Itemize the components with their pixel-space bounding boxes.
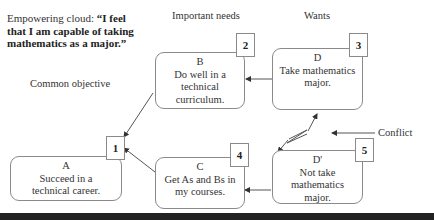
conflict-label: Conflict (378, 127, 412, 138)
arrow-b-to-a (124, 93, 153, 137)
box-c-text: Get As and Bs in my courses. (156, 174, 244, 199)
box-b-number: 2 (236, 33, 255, 57)
box-b-letter: B (156, 56, 244, 69)
box-a-letter: A (11, 160, 121, 173)
box-d-prime-want: D' Not take mathematics major. (272, 150, 363, 204)
box-d-prime-number: 5 (355, 138, 374, 162)
box-b-need: B Do well in a technical curriculum. (155, 52, 245, 109)
box-d-prime-text: Not take mathematics major. (273, 167, 362, 205)
conflict-arrow-up (308, 114, 317, 131)
bottom-border-bar (0, 213, 434, 220)
common-objective-heading: Common objective (30, 78, 110, 89)
box-d-prime-letter: D' (273, 154, 362, 167)
box-c-number: 4 (230, 143, 249, 167)
box-a-common-objective: A Succeed in a technical career. (10, 156, 122, 201)
important-needs-heading: Important needs (172, 10, 240, 21)
box-b-text: Do well in a technical curriculum. (156, 69, 244, 107)
arrow-c-to-a (124, 148, 155, 172)
box-d-text: Take mathematics major. (273, 65, 362, 90)
conflict-zigzag (287, 130, 307, 143)
empowering-cloud-prefix: Empowering cloud: (7, 12, 97, 24)
empowering-cloud-caption: Empowering cloud: “I feel that I am capa… (7, 12, 147, 50)
box-d-number: 3 (349, 33, 368, 57)
box-d-want: D Take mathematics major. (272, 48, 363, 110)
wants-heading: Wants (304, 10, 330, 21)
box-a-text: Succeed in a technical career. (11, 173, 121, 198)
box-a-number: 1 (106, 136, 125, 160)
